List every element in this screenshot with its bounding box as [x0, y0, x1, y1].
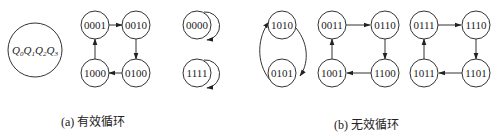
svg-text:0100: 0100 — [125, 67, 148, 79]
state-node-1100: 1100 — [371, 59, 399, 87]
state-node-1110: 1110 — [462, 11, 490, 39]
state-node-1000: 1000 — [81, 59, 109, 87]
state-node-0010: 0010 — [122, 11, 150, 39]
legend-node: Q0Q1Q2Q3 — [8, 23, 62, 77]
state-node-0011: 0011 — [318, 11, 346, 39]
svg-text:1110: 1110 — [465, 19, 487, 31]
svg-text:0101: 0101 — [271, 67, 293, 79]
caption-effective-cycle: (a) 有效循环 — [61, 112, 125, 130]
svg-text:1111: 1111 — [187, 67, 208, 79]
pair-cycle: 1010 0101 — [260, 11, 307, 87]
svg-text:0001: 0001 — [84, 19, 106, 31]
svg-text:1000: 1000 — [84, 67, 107, 79]
svg-text:0111: 0111 — [413, 19, 434, 31]
state-node-1101: 1101 — [462, 59, 490, 87]
svg-text:0000: 0000 — [186, 19, 209, 31]
legend-label: Q0Q1Q2Q3 — [12, 44, 58, 58]
svg-text:0110: 0110 — [374, 19, 396, 31]
effective-cycle: 0001 0010 0100 1000 — [81, 11, 150, 87]
state-node-0101: 0101 — [268, 59, 296, 87]
svg-text:1001: 1001 — [321, 67, 343, 79]
ineffective-cycle-1: 0011 0110 1100 1001 — [318, 11, 399, 87]
caption-ineffective-cycle: (b) 无效循环 — [334, 115, 399, 133]
svg-text:0010: 0010 — [125, 19, 148, 31]
self-loop-1111: 1111 — [183, 59, 220, 88]
svg-text:0011: 0011 — [321, 19, 343, 31]
svg-text:1101: 1101 — [465, 67, 487, 79]
state-node-1001: 1001 — [318, 59, 346, 87]
state-node-0110: 0110 — [371, 11, 399, 39]
state-node-1010: 1010 — [268, 11, 296, 39]
ineffective-cycles: 0000 1111 1010 0101 0011 0110 1100 1001 — [183, 11, 490, 88]
state-node-1011: 1011 — [410, 59, 438, 87]
svg-text:1011: 1011 — [413, 67, 435, 79]
state-node-0001: 0001 — [81, 11, 109, 39]
edge-1010-0101 — [296, 28, 306, 76]
state-node-0111: 0111 — [410, 11, 438, 39]
ineffective-cycle-2: 0111 1110 1101 1011 — [410, 11, 490, 87]
self-loop-0000: 0000 — [183, 11, 220, 40]
svg-text:1100: 1100 — [374, 67, 396, 79]
state-node-0100: 0100 — [122, 59, 150, 87]
svg-text:1010: 1010 — [271, 19, 294, 31]
